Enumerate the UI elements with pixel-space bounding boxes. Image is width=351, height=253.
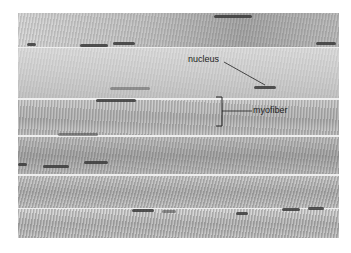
leader-lines (0, 0, 351, 253)
myofiber-label: myofiber (253, 106, 288, 115)
myofiber-bracket-icon (216, 97, 222, 126)
nucleus-pointer-line (224, 62, 265, 85)
